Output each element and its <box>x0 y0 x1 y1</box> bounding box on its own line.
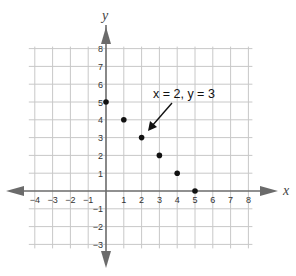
data-points <box>103 99 198 194</box>
y-tick-label: −1 <box>93 204 103 214</box>
y-tick-label: 6 <box>98 80 103 90</box>
x-tick-label: 2 <box>139 195 144 205</box>
x-tick-label: 5 <box>192 195 197 205</box>
data-point <box>121 117 127 123</box>
y-tick-label: 3 <box>98 133 103 143</box>
x-tick-label: −2 <box>65 195 75 205</box>
data-point <box>157 153 163 159</box>
y-tick-labels: 87654321−1−2−3 <box>93 44 103 250</box>
x-tick-label: −4 <box>30 195 40 205</box>
y-tick-label: 4 <box>98 115 103 125</box>
y-axis-up-arrow-icon <box>101 27 111 44</box>
x-tick-labels: −4−3−2−112345678 <box>30 195 251 205</box>
data-point <box>174 170 180 176</box>
x-axis-label: x <box>282 183 290 198</box>
y-axis-down-arrow-icon <box>101 251 111 268</box>
x-tick-label: 1 <box>121 195 126 205</box>
data-point <box>139 135 145 141</box>
x-tick-label: −3 <box>47 195 57 205</box>
y-tick-label: 7 <box>98 62 103 72</box>
x-axis-left-arrow-icon <box>6 186 24 196</box>
annotation: x = 2, y = 3 <box>148 87 215 131</box>
y-tick-label: 2 <box>98 151 103 161</box>
y-tick-label: 8 <box>98 44 103 54</box>
y-tick-label: 1 <box>98 169 103 179</box>
annotation-text: x = 2, y = 3 <box>153 87 215 101</box>
data-point <box>192 188 198 194</box>
x-tick-label: 8 <box>246 195 251 205</box>
x-tick-label: 4 <box>175 195 180 205</box>
data-point <box>103 99 109 105</box>
x-tick-label: 6 <box>210 195 215 205</box>
annotation-arrow <box>152 103 172 126</box>
grid-lines <box>29 47 253 249</box>
coordinate-plane: −4−3−2−112345678 87654321−1−2−3 x y x = … <box>0 0 296 276</box>
y-tick-label: −2 <box>93 222 103 232</box>
y-tick-label: 5 <box>98 98 103 108</box>
x-tick-label: 7 <box>228 195 233 205</box>
x-axis-right-arrow-icon <box>260 186 278 196</box>
y-tick-label: −3 <box>93 240 103 250</box>
y-axis-label: y <box>100 8 109 23</box>
x-tick-label: 3 <box>157 195 162 205</box>
